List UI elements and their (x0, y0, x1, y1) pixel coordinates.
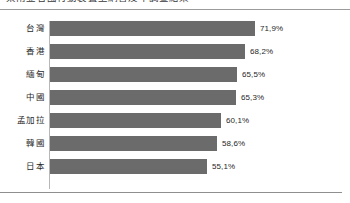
bar (50, 21, 255, 36)
chart-row: 香港68,2% (0, 44, 350, 67)
bar-value-label: 58,6% (222, 136, 245, 151)
bar-value-label: 68,2% (250, 44, 273, 59)
chart-row: 緬甸65,5% (0, 67, 350, 90)
horizontal-bar-chart: 台灣71,9%香港68,2%緬甸65,5%中國65,3%孟加拉60,1%韓國58… (0, 10, 350, 192)
chart-row: 韓國58,6% (0, 136, 350, 159)
bar (50, 113, 221, 128)
category-label: 台灣 (0, 21, 45, 36)
chart-row: 台灣71,9% (0, 21, 350, 44)
bar (50, 44, 245, 59)
category-label: 孟加拉 (0, 113, 45, 128)
footer-divider (0, 192, 342, 193)
chart-row: 中國65,3% (0, 90, 350, 113)
chart-row: 孟加拉60,1% (0, 113, 350, 136)
category-label: 緬甸 (0, 67, 45, 82)
bar (50, 136, 217, 151)
chart-row: 日本55,1% (0, 159, 350, 182)
page-title: 東南亞各國行動裝置上網普及率調查結果 (6, 0, 336, 4)
chart-page: 東南亞各國行動裝置上網普及率調查結果 台灣71,9%香港68,2%緬甸65,5%… (0, 0, 350, 203)
bar-value-label: 65,3% (241, 90, 264, 105)
bar (50, 90, 236, 105)
bar-value-label: 71,9% (260, 21, 283, 36)
category-label: 香港 (0, 44, 45, 59)
category-label: 韓國 (0, 136, 45, 151)
bar-value-label: 65,5% (242, 67, 265, 82)
bar-value-label: 55,1% (212, 159, 235, 174)
bar-value-label: 60,1% (226, 113, 249, 128)
bar (50, 159, 207, 174)
category-label: 日本 (0, 159, 45, 174)
bar (50, 67, 237, 82)
category-label: 中國 (0, 90, 45, 105)
